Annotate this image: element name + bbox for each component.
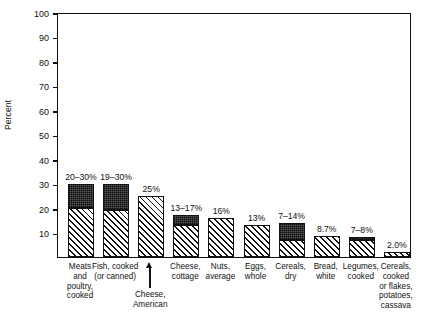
bar-group[interactable]: 8.7%: [314, 236, 340, 257]
bar-segment-lower: [208, 218, 234, 257]
y-tick-label: 80: [22, 57, 49, 69]
bar-group[interactable]: 7–8%: [349, 237, 375, 257]
x-category-line: cooked: [46, 291, 114, 301]
x-category-line: or flakes,: [362, 282, 427, 292]
bar-segment-upper: [173, 215, 199, 225]
bar-segment-upper: [349, 237, 375, 239]
x-category-line: cassava: [362, 301, 427, 311]
bar-group[interactable]: 16%: [208, 218, 234, 257]
y-tick-label: 100: [22, 8, 49, 20]
x-category-line: Fish, cooked: [81, 262, 149, 272]
bar-segment-upper: [279, 223, 305, 240]
x-category-line: cooked: [362, 272, 427, 282]
bar-value-label: 8.7%: [317, 224, 337, 234]
bar-segment-lower: [279, 240, 305, 257]
bar-group[interactable]: 20–30%: [68, 184, 94, 258]
bar-value-label: 13–17%: [171, 203, 203, 213]
bar-value-label: 2.0%: [387, 240, 407, 250]
bar-segment-lower: [103, 210, 129, 257]
bar-segment-lower: [173, 225, 199, 257]
bar-group[interactable]: 13–17%: [173, 215, 199, 257]
bar-value-label: 19–30%: [100, 172, 132, 182]
y-tick-label: 40: [22, 155, 49, 167]
x-category-line: American: [116, 300, 184, 310]
bar-segment-lower: [68, 208, 94, 257]
x-category-label: Cheese,American: [116, 290, 184, 310]
y-tick-label: 90: [22, 32, 49, 44]
bar-segment-upper: [103, 184, 129, 211]
y-tick-label: 10: [22, 228, 49, 240]
bar-value-label: 16%: [213, 206, 230, 216]
bar-value-label: 20–30%: [65, 172, 97, 182]
bar-value-label: 7–8%: [351, 225, 373, 235]
y-tick-label: 70: [22, 81, 49, 93]
y-axis-title: Percent: [3, 85, 13, 145]
bar-group[interactable]: 2.0%: [384, 252, 410, 257]
x-category-line: (or canned): [81, 272, 149, 282]
bar-group[interactable]: 13%: [244, 225, 270, 257]
bar-value-label: 25%: [143, 184, 160, 194]
x-category-line: Cereals,: [362, 262, 427, 272]
bar-segment-lower: [349, 240, 375, 257]
bar-group[interactable]: 25%: [138, 196, 164, 257]
plot-area: 102030405060708090100 20–30%19–30%25%13–…: [57, 13, 411, 258]
bar-segment-upper: [68, 184, 94, 209]
bar-group[interactable]: 19–30%: [103, 184, 129, 258]
y-tick-label: 50: [22, 130, 49, 142]
x-category-line: potatoes,: [362, 291, 427, 301]
x-category-label: Cereals,cookedor flakes,potatoes,cassava: [362, 262, 427, 311]
y-tick-label: 30: [22, 179, 49, 191]
x-category-label: Fish, cooked(or canned): [81, 262, 149, 282]
y-tick-label: 60: [22, 106, 49, 118]
y-tick-label: 20: [22, 204, 49, 216]
bar-value-label: 7–14%: [278, 211, 305, 221]
arrow-shaft: [149, 266, 150, 288]
chart-figure: Percent 102030405060708090100 20–30%19–3…: [0, 0, 427, 320]
bar-value-label: 13%: [248, 213, 265, 223]
x-category-line: Cheese,: [116, 290, 184, 300]
bar-segment-lower: [138, 196, 164, 257]
bar-segment-lower: [384, 252, 410, 257]
bar-segment-lower: [244, 225, 270, 257]
bar-segment-lower: [314, 236, 340, 257]
bars-layer: 20–30%19–30%25%13–17%16%13%7–14%8.7%7–8%…: [58, 14, 410, 257]
x-category-line: poultry,: [46, 282, 114, 292]
bar-group[interactable]: 7–14%: [279, 223, 305, 257]
